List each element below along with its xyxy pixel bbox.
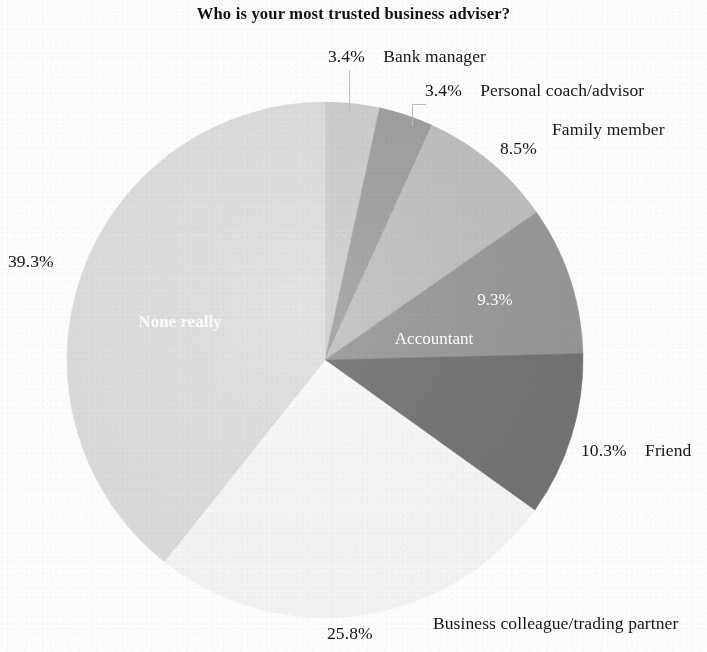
bank-manager-name: Bank manager <box>383 46 486 66</box>
personal-coach-name: Personal coach/advisor <box>480 80 644 100</box>
business-colleague-name: Business colleague/trading partner <box>433 613 678 633</box>
friend-name: Friend <box>645 440 691 460</box>
label-none-really-percent: 39.3% <box>8 252 54 271</box>
chart-page: Who is your most trusted business advise… <box>0 0 707 652</box>
leader-line-personal-coach-elbow <box>412 104 426 105</box>
label-family-member-name: Family member <box>552 120 665 139</box>
label-personal-coach: 3.4% Personal coach/advisor <box>425 81 644 100</box>
label-business-colleague-percent: 25.8% <box>327 624 373 643</box>
none-really-percent: 39.3% <box>8 251 54 271</box>
friend-percent: 10.3% <box>581 440 627 460</box>
accountant-name-label: Accountant <box>395 329 474 348</box>
bank-manager-percent: 3.4% <box>328 46 365 66</box>
family-member-name: Family member <box>552 119 665 139</box>
pie-slices <box>67 102 583 618</box>
personal-coach-percent: 3.4% <box>425 80 462 100</box>
chart-title: Who is your most trusted business advise… <box>0 4 707 24</box>
label-family-member-percent: 8.5% <box>500 139 537 158</box>
family-member-percent: 8.5% <box>500 138 537 158</box>
label-bank-manager: 3.4% Bank manager <box>328 47 486 66</box>
label-business-colleague-name: Business colleague/trading partner <box>433 614 678 633</box>
none-really-name-label: None really <box>138 312 222 331</box>
leader-line-personal-coach <box>412 104 413 126</box>
leader-line-bank-manager <box>349 70 350 112</box>
accountant-percent-label: 9.3% <box>477 290 512 309</box>
business-colleague-percent: 25.8% <box>327 623 373 643</box>
label-friend: 10.3% Friend <box>581 441 691 460</box>
